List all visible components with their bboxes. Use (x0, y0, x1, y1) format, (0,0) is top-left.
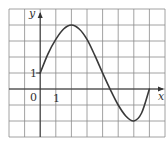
origin-label: 0 (30, 91, 37, 104)
y-axis-arrow-icon (38, 12, 43, 18)
x-tick-label-1: 1 (53, 92, 60, 105)
plot-area: y x 0 1 1 (0, 0, 167, 150)
y-axis-label: y (28, 7, 36, 20)
y-tick-label-1: 1 (30, 67, 37, 80)
function-graph: y x 0 1 1 (0, 0, 167, 150)
x-axis-label: x (158, 90, 165, 103)
